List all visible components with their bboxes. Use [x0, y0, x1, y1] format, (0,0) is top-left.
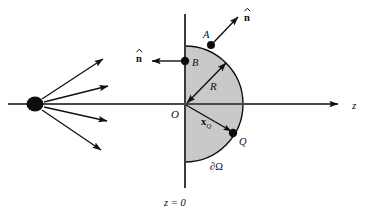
hat-accent-b-icon	[137, 49, 143, 52]
ray-2	[44, 86, 108, 102]
point-b-marker	[181, 57, 189, 65]
normal-label-a: n	[244, 8, 250, 23]
ray-1	[42, 59, 103, 99]
hat-accent-a-icon	[245, 8, 251, 11]
half-space-geometry-diagram: z z = 0 O R A B Q n n xQ ∂Ω	[0, 0, 369, 216]
point-q-marker	[229, 129, 237, 137]
normal-label-b-text: n	[136, 53, 142, 64]
ray-4	[42, 110, 101, 150]
point-a-label: A	[202, 29, 210, 40]
normal-label-a-text: n	[244, 12, 250, 23]
plane-equation-label: z = 0	[163, 197, 186, 208]
boundary-label: ∂Ω	[210, 161, 223, 172]
ray-3	[44, 107, 107, 121]
figure-container: z z = 0 O R A B Q n n xQ ∂Ω	[0, 0, 369, 216]
point-q-label: Q	[239, 136, 247, 147]
source-point-marker	[27, 97, 44, 112]
origin-label: O	[171, 108, 179, 120]
normal-vector-arrow-a	[214, 17, 238, 42]
z-axis-label: z	[351, 99, 357, 111]
normal-label-b: n	[136, 49, 142, 64]
point-b-label: B	[192, 57, 199, 68]
point-a-marker	[207, 41, 215, 49]
radius-label: R	[209, 80, 217, 92]
position-vector-subscript: Q	[206, 122, 211, 130]
